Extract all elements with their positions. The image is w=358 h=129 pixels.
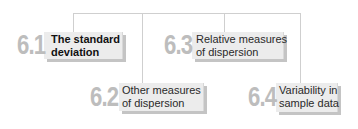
connector-to-6-1 [73, 13, 74, 32]
connector-to-6-3 [224, 13, 225, 32]
node-6-2-label-line2: of dispersion [122, 97, 201, 110]
connector-to-6-4 [300, 13, 301, 83]
node-6-4-number: 6.4 [248, 84, 276, 111]
node-6-3-number: 6.3 [164, 32, 192, 59]
node-6-2-number: 6.2 [90, 84, 118, 111]
node-6-3-label-line2: of dispersion [196, 46, 287, 59]
connector-to-6-2 [142, 13, 143, 83]
node-6-1-label: The standard deviation [51, 33, 120, 59]
node-6-4-label: Variability in sample data [279, 84, 339, 110]
node-6-1-label-line2: deviation [51, 46, 120, 59]
node-6-3-label-line1: Relative measures [196, 33, 287, 46]
node-6-3-label: Relative measures of dispersion [196, 33, 287, 59]
node-6-2-label: Other measures of dispersion [122, 84, 201, 110]
node-6-2-label-line1: Other measures [122, 84, 201, 97]
node-6-4-label-line2: sample data [279, 97, 339, 110]
connector-horizontal [73, 13, 301, 14]
node-6-1-number: 6.1 [17, 32, 45, 59]
node-6-1-label-line1: The standard [51, 33, 120, 46]
node-6-4-label-line1: Variability in [279, 84, 339, 97]
